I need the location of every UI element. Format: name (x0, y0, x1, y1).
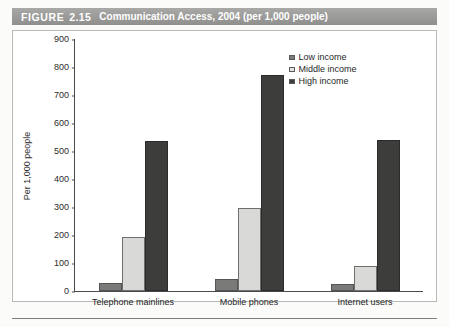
x-axis-label: Internet users (337, 297, 392, 307)
bar-middle-income[interactable] (354, 266, 377, 291)
y-axis-tick-400: 400 (54, 175, 75, 184)
y-axis-tick-500: 500 (54, 147, 75, 156)
bar-low-income[interactable] (215, 279, 238, 291)
y-axis-tick-300: 300 (54, 203, 75, 212)
y-axis-tick-200: 200 (54, 231, 75, 240)
legend-item[interactable]: High income (289, 77, 357, 86)
y-axis-tick-900: 900 (54, 35, 75, 44)
bar-low-income[interactable] (331, 284, 354, 291)
legend-item[interactable]: Middle income (289, 65, 357, 74)
chart-legend: Low incomeMiddle incomeHigh income (289, 53, 357, 86)
x-axis-label: Mobile phones (220, 297, 279, 307)
figure-label: FIGURE (21, 11, 64, 23)
bottom-divider (12, 318, 437, 319)
legend-swatch-icon (289, 79, 295, 85)
plot-area: 0100200300400500600700800900Telephone ma… (74, 39, 423, 292)
legend-label: High income (299, 77, 349, 86)
figure-caption: Communication Access, 2004 (per 1,000 pe… (99, 11, 328, 22)
y-axis-title: Per 1,000 people (22, 132, 32, 201)
bar-group (75, 39, 191, 291)
y-axis-tick-700: 700 (54, 91, 75, 100)
bar-high-income[interactable] (377, 140, 400, 291)
bar-middle-income[interactable] (122, 237, 145, 291)
figure-title-bar: FIGURE 2.15 Communication Access, 2004 (… (12, 8, 437, 25)
figure-number: 2.15 (69, 11, 91, 23)
bar-high-income[interactable] (145, 141, 168, 291)
bar-middle-income[interactable] (238, 208, 261, 291)
legend-item[interactable]: Low income (289, 53, 357, 62)
bar-low-income[interactable] (99, 283, 122, 291)
y-axis-tick-600: 600 (54, 119, 75, 128)
y-axis-tick-100: 100 (54, 259, 75, 268)
y-axis-tick-0: 0 (64, 287, 75, 296)
y-axis-tick-800: 800 (54, 63, 75, 72)
x-axis-label: Telephone mainlines (92, 297, 174, 307)
legend-swatch-icon (289, 67, 295, 73)
chart-frame: Per 1,000 people 01002003004005006007008… (12, 30, 437, 302)
legend-swatch-icon (289, 55, 295, 61)
bar-high-income[interactable] (261, 75, 284, 291)
legend-label: Low income (299, 53, 347, 62)
legend-label: Middle income (299, 65, 357, 74)
